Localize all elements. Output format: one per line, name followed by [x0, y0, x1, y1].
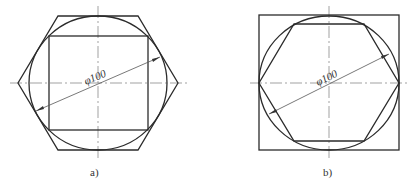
figure-caption: a): [90, 166, 99, 179]
arrowhead-icon: [36, 106, 44, 111]
dimension-label: φ100: [314, 67, 340, 88]
figure-a: φ100 a): [10, 6, 188, 179]
arrowhead-icon: [269, 109, 277, 114]
figure-caption: b): [323, 166, 333, 179]
arrowhead-icon: [152, 57, 160, 62]
figure-b: φ100 b): [250, 6, 410, 179]
dimension-label: φ100: [82, 67, 108, 87]
drawing-canvas: φ100 a) φ100 b): [0, 0, 412, 191]
